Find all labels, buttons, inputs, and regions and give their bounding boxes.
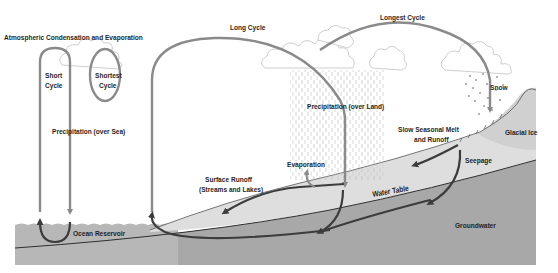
label-longest-cycle: Longest Cycle: [380, 13, 425, 22]
label-shortest-cycle-2: Cycle: [99, 81, 117, 90]
label-surface-runoff-2: (Streams and Lakes): [199, 185, 263, 194]
label-shortest-cycle-1: Shortest: [95, 71, 122, 80]
label-evaporation: Evaporation: [287, 160, 325, 169]
snow-area: [465, 73, 504, 115]
cloud-mid: [369, 46, 406, 70]
label-ocean-reservoir: Ocean Reservoir: [73, 229, 125, 238]
label-groundwater: Groundwater: [455, 221, 496, 230]
label-long-cycle: Long Cycle: [230, 23, 265, 32]
cloud-right: [441, 41, 512, 74]
label-glacial-ice: Glacial Ice: [505, 128, 537, 137]
label-surface-runoff-1: Surface Runoff: [205, 175, 252, 184]
label-atmospheric: Atmospheric Condensation and Evaporation: [4, 33, 143, 42]
label-short-cycle-1: Short: [45, 71, 62, 80]
label-precip-sea: Precipitation (over Sea): [52, 127, 125, 136]
label-slow-melt-1: Slow Seasonal Melt: [398, 125, 459, 134]
ground-layers: [15, 88, 536, 265]
label-snow: Snow: [490, 83, 508, 92]
label-short-cycle-2: Cycle: [45, 81, 63, 90]
label-precip-land: Precipitation (over Land): [307, 102, 384, 111]
label-seepage: Seepage: [465, 156, 492, 165]
label-slow-melt-2: and Runoff: [414, 135, 449, 144]
